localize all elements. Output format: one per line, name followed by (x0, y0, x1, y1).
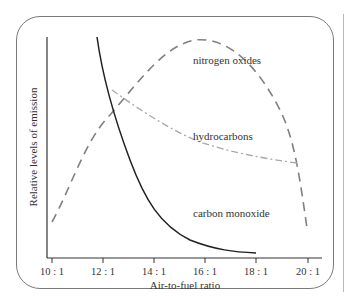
carbon-monoxide-curve (97, 37, 256, 253)
x-ticks (52, 258, 308, 263)
nitrogen-oxides-curve (52, 40, 307, 228)
nitrogen-oxides-label: nitrogen oxides (193, 54, 261, 66)
emissions-chart: nitrogen oxides hydrocarbons carbon mono… (0, 0, 351, 298)
y-axis-title: Relative levels of emission (27, 87, 39, 206)
tick-label: 10 : 1 (40, 266, 64, 277)
tick-label: 20 : 1 (296, 266, 320, 277)
hydrocarbons-label: hydrocarbons (193, 130, 253, 142)
tick-label: 18 : 1 (244, 266, 268, 277)
tick-label: 16 : 1 (193, 266, 217, 277)
tick-label: 14 : 1 (142, 266, 166, 277)
hydrocarbons-curve (112, 90, 297, 163)
x-axis-title: Air-to-fuel ratio (150, 279, 221, 291)
tick-label: 12 : 1 (91, 266, 115, 277)
carbon-monoxide-label: carbon monoxide (193, 207, 270, 219)
